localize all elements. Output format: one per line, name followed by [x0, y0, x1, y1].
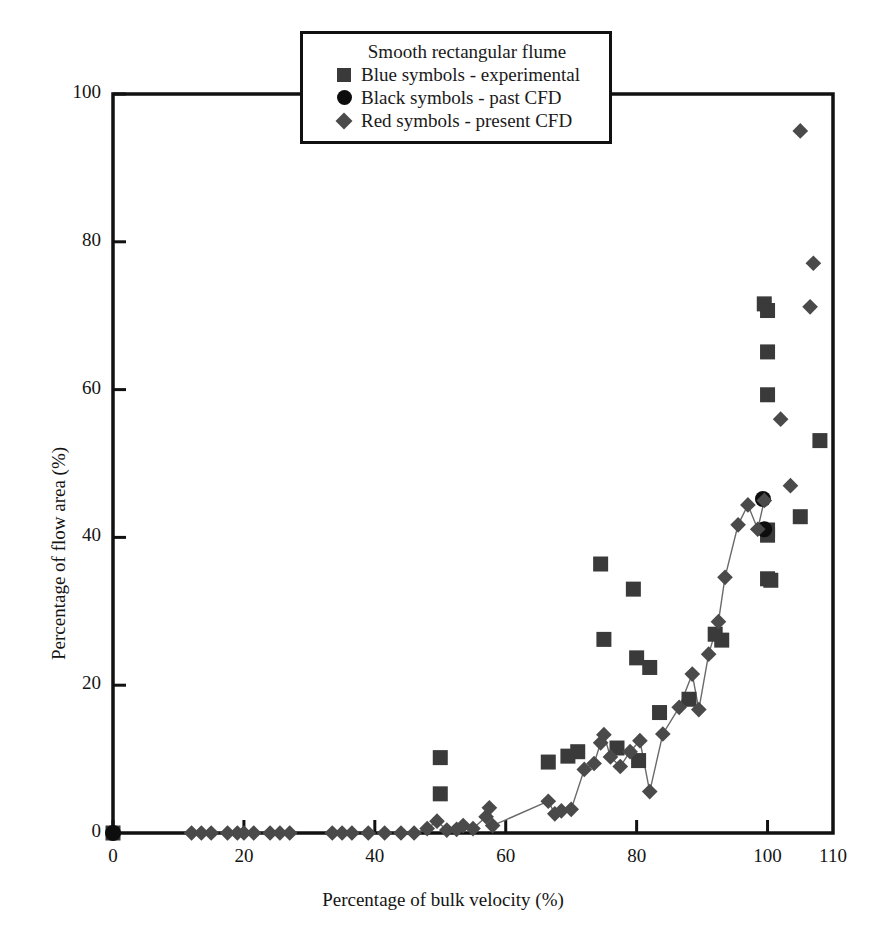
- data-point-square: [541, 755, 556, 770]
- data-point-square: [652, 705, 667, 720]
- data-point-square: [760, 344, 775, 359]
- figure-canvas: 020406080100110020406080100 Percentage o…: [0, 0, 886, 934]
- legend-entry: Black symbols - past CFD: [303, 86, 609, 109]
- legend-entry-label: Black symbols - past CFD: [361, 86, 562, 109]
- square-glyph: [337, 68, 351, 82]
- data-point-square: [812, 433, 827, 448]
- axes-frame: [113, 94, 833, 833]
- y-tick-label: 100: [17, 81, 101, 103]
- data-point-diamond: [701, 646, 717, 662]
- data-point-diamond: [773, 411, 789, 427]
- data-point-diamond: [344, 825, 360, 841]
- x-tick-label: 20: [204, 845, 284, 867]
- data-point-square: [433, 786, 448, 801]
- plot-frame: [113, 94, 833, 833]
- circle-marker-icon: [327, 90, 361, 105]
- y-axis-title: Percentage of flow area (%): [48, 447, 70, 660]
- data-point-diamond: [730, 517, 746, 533]
- y-tick-label: 80: [17, 229, 101, 251]
- legend-title: Smooth rectangular flume: [303, 40, 609, 63]
- data-point-square: [629, 650, 644, 665]
- data-point-square: [642, 660, 657, 675]
- y-tick-label: 0: [17, 820, 101, 842]
- data-point-square: [760, 387, 775, 402]
- data-point-square: [570, 744, 585, 759]
- data-point-diamond: [792, 123, 808, 139]
- data-point-square: [596, 632, 611, 647]
- data-point-diamond: [740, 497, 756, 513]
- legend-entries: Blue symbols - experimentalBlack symbols…: [303, 63, 609, 132]
- data-point-diamond: [655, 726, 671, 742]
- series-connector-lines: [414, 500, 764, 833]
- data-point-square: [760, 303, 775, 318]
- legend-box: Smooth rectangular flume Blue symbols - …: [300, 31, 612, 144]
- diamond-glyph: [336, 112, 353, 129]
- data-point-square: [793, 509, 808, 524]
- data-point-diamond: [802, 299, 818, 315]
- data-point-diamond: [540, 793, 556, 809]
- data-point-diamond: [563, 802, 579, 818]
- data-point-diamond: [783, 478, 799, 494]
- legend-entry-label: Red symbols - present CFD: [361, 109, 572, 132]
- data-point-diamond: [642, 784, 658, 800]
- x-tick-label: 40: [335, 845, 415, 867]
- data-point-diamond: [406, 825, 422, 841]
- data-point-diamond: [684, 666, 700, 682]
- legend-entry: Red symbols - present CFD: [303, 109, 609, 132]
- x-tick-label: 60: [466, 845, 546, 867]
- square-marker-icon: [327, 68, 361, 82]
- series-data-points: [105, 123, 827, 841]
- x-tick-label: 110: [793, 845, 873, 867]
- data-point-diamond: [717, 569, 733, 585]
- data-point-diamond: [246, 825, 262, 841]
- legend-entry-label: Blue symbols - experimental: [361, 63, 580, 86]
- legend-entry: Blue symbols - experimental: [303, 63, 609, 86]
- x-tick-label: 80: [597, 845, 677, 867]
- y-tick-label: 20: [17, 672, 101, 694]
- data-point-square: [593, 557, 608, 572]
- data-point-circle: [105, 825, 121, 841]
- data-point-diamond: [203, 825, 219, 841]
- data-point-diamond: [282, 825, 298, 841]
- data-point-diamond: [806, 255, 822, 271]
- data-point-square: [433, 750, 448, 765]
- data-point-square: [763, 573, 778, 588]
- series-line: [414, 500, 764, 833]
- data-point-square: [714, 633, 729, 648]
- diamond-marker-icon: [327, 115, 361, 127]
- x-axis-title: Percentage of bulk velocity (%): [0, 889, 886, 911]
- x-tick-label: 0: [73, 845, 153, 867]
- data-point-diamond: [377, 825, 393, 841]
- data-point-square: [626, 582, 641, 597]
- y-tick-label: 60: [17, 377, 101, 399]
- circle-glyph: [337, 90, 352, 105]
